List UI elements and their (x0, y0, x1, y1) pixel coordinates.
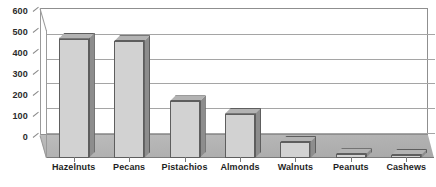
bar-almonds (225, 108, 261, 158)
bar-front-face (114, 41, 144, 158)
bar-chart: 600 500 400 300 200 100 0 HazelnutsPecan… (0, 0, 436, 187)
bar-front-face (170, 101, 200, 158)
x-tick-label-pistachios: Pistachios (162, 162, 208, 172)
bar-pistachios (170, 95, 206, 158)
bar-side-face (200, 95, 206, 158)
x-tick-label-almonds: Almonds (220, 162, 259, 172)
bar-side-face (255, 108, 261, 158)
bar-side-face (144, 35, 150, 158)
bar-front-face (59, 39, 89, 158)
bar-cashews (391, 149, 427, 158)
bar-walnuts (280, 136, 316, 158)
x-tick-label-peanuts: Peanuts (333, 162, 369, 172)
x-tick-label-walnuts: Walnuts (278, 162, 313, 172)
bar-peanuts (336, 148, 372, 158)
bar-side-face (89, 33, 95, 158)
bar-front-face (280, 142, 310, 158)
bar-pecans (114, 35, 150, 158)
x-tick-label-pecans: Pecans (113, 162, 145, 172)
x-tick-label-hazelnuts: Hazelnuts (52, 162, 95, 172)
bars-layer (0, 0, 436, 187)
bar-front-face (225, 114, 255, 158)
x-tick-label-cashews: Cashews (386, 162, 426, 172)
x-axis: HazelnutsPecansPistachiosAlmondsWalnutsP… (0, 162, 436, 184)
bar-hazelnuts (59, 33, 95, 158)
